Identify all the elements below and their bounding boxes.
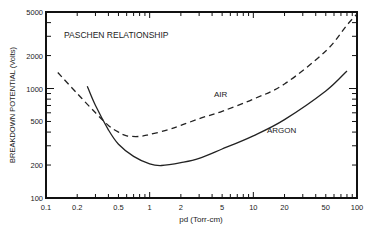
x-tick-label: 5: [220, 203, 224, 212]
x-tick-label: 1: [148, 203, 152, 212]
x-tick-label: 2: [179, 203, 183, 212]
y-tick-label: 1000: [26, 85, 43, 94]
x-tick-label: 100: [351, 203, 364, 212]
series-label-argon: ARGON: [267, 126, 297, 135]
x-tick-label: 0.1: [41, 203, 51, 212]
x-axis-label: pd (Torr-cm): [179, 215, 223, 224]
x-tick-labels: 0.10.20.5125102050100: [41, 203, 363, 212]
x-tick-label: 10: [249, 203, 257, 212]
y-tick-label: 5000: [26, 8, 43, 17]
y-tick-label: 500: [30, 117, 43, 126]
x-tick-label: 20: [280, 203, 288, 212]
series-label-air: AIR: [214, 90, 228, 99]
chart-title: PASCHEN RELATIONSHIP: [64, 30, 169, 40]
y-tick-labels: 100200500100020005000: [26, 8, 43, 203]
y-tick-label: 200: [30, 161, 43, 170]
paschen-chart: 0.10.20.5125102050100 100200500100020005…: [0, 0, 371, 236]
x-tick-label: 50: [322, 203, 330, 212]
x-tick-label: 0.5: [113, 203, 123, 212]
y-tick-label: 2000: [26, 52, 43, 61]
y-axis-label: BREAKDOWN POTENTIAL (Volts): [8, 47, 17, 163]
x-tick-label: 0.2: [72, 203, 82, 212]
curve-argon: [87, 71, 347, 166]
y-tick-label: 100: [30, 194, 43, 203]
